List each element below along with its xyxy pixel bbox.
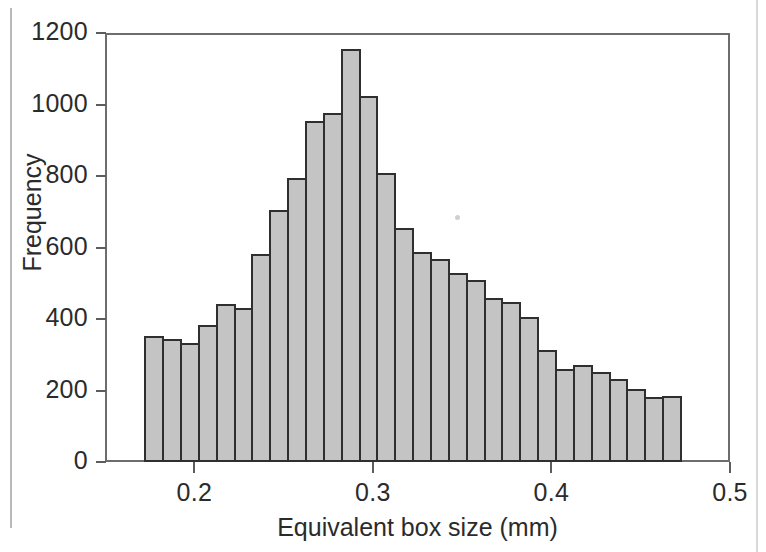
x-axis-tick-label: 0.4 (506, 478, 596, 507)
y-axis-tick (96, 461, 106, 463)
histogram-bar (251, 254, 271, 462)
x-axis-tick (193, 462, 195, 473)
histogram-bar (644, 397, 664, 462)
y-axis-tick-label: 1200 (26, 17, 88, 46)
histogram-bar (180, 343, 200, 462)
histogram-bar (198, 325, 218, 462)
histogram-bar (394, 228, 414, 462)
histogram-bar (287, 178, 307, 462)
histogram-bar (555, 369, 575, 462)
histogram-bar (144, 336, 164, 462)
histogram-bar (376, 173, 396, 462)
x-axis-tick-label: 0.2 (149, 478, 239, 507)
histogram-bar (234, 308, 254, 462)
x-axis-tick (372, 462, 374, 473)
y-axis-tick (96, 175, 106, 177)
histogram-bar (662, 396, 682, 463)
histogram-bar (626, 389, 646, 462)
histogram-bar (359, 96, 379, 462)
histogram-bar (501, 302, 521, 462)
page-edge-left (10, 8, 12, 528)
histogram-bar (162, 339, 182, 462)
histogram-bar (609, 379, 629, 462)
x-axis-title: Equivalent box size (mm) (105, 513, 730, 542)
y-axis-title: Frequency (18, 88, 47, 338)
histogram-bar (519, 317, 539, 463)
y-axis-tick (96, 247, 106, 249)
histogram-bar (269, 210, 289, 462)
y-axis-tick (96, 318, 106, 320)
histogram-bar (430, 259, 450, 462)
x-axis-tick-label: 0.3 (328, 478, 418, 507)
histogram-bar (591, 372, 611, 462)
histogram-bar (305, 121, 325, 462)
y-axis-tick (96, 32, 106, 34)
scan-speck (455, 215, 460, 220)
histogram-figure: 020040060080010001200 0.20.30.40.5 Frequ… (0, 0, 766, 552)
histogram-bar (341, 49, 361, 462)
histogram-bar (573, 365, 593, 462)
histogram-bar (448, 273, 468, 462)
histogram-bar (484, 298, 504, 462)
y-axis-tick-label: 200 (26, 375, 88, 404)
histogram-bar (466, 280, 486, 462)
histogram-bar (412, 252, 432, 462)
x-axis-tick-label: 0.5 (685, 478, 766, 507)
x-axis-tick (729, 462, 731, 473)
histogram-bar (216, 304, 236, 462)
page-edge-right (756, 0, 758, 552)
histogram-bars (105, 33, 730, 462)
x-axis-tick (550, 462, 552, 473)
y-axis-tick (96, 104, 106, 106)
y-axis-tick-label: 0 (26, 446, 88, 475)
histogram-bar (537, 350, 557, 462)
y-axis-tick (96, 390, 106, 392)
histogram-bar (323, 113, 343, 462)
